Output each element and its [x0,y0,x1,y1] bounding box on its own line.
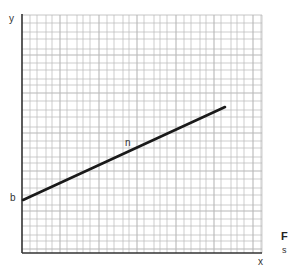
grid-lines [22,15,262,253]
figure-caption-partial: F [281,230,288,242]
caption-subtext-partial: s [282,245,287,255]
y-axis-label: y [9,14,14,24]
x-axis-label: x [258,257,263,267]
intercept-label: b [10,193,16,203]
line-label: n [125,138,131,148]
chart-canvas [0,0,288,275]
line-n [23,107,225,200]
